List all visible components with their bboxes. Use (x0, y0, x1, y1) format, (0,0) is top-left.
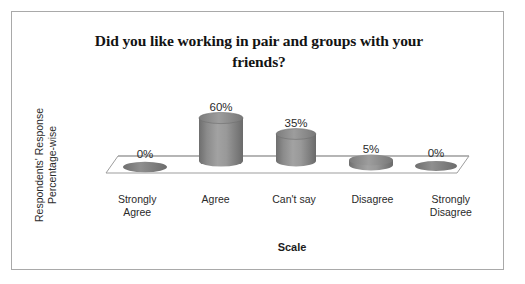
category-label-agree: Agree (176, 193, 254, 219)
bar-cant-say (276, 129, 316, 167)
category-label-line-1: Agree (202, 193, 230, 205)
data-label-strongly-disagree: 0% (428, 147, 445, 159)
data-label-cant-say: 35% (284, 117, 307, 129)
plot-area: 0% 60% 35% 5% 0% (12, 12, 505, 271)
category-label-line-1: Can't say (272, 193, 315, 205)
category-label-line-1: Strongly (118, 193, 157, 205)
bar-disagree (349, 155, 393, 171)
category-label-line-1: Strongly (432, 193, 471, 205)
data-label-agree: 60% (209, 101, 232, 113)
category-label-line-2: Disagree (412, 206, 490, 219)
x-axis-title: Scale (132, 241, 452, 253)
category-label-disagree: Disagree (333, 193, 411, 219)
chart-frame: Did you like working in pair and groups … (11, 11, 504, 270)
bar-strongly-disagree (415, 161, 457, 171)
data-label-disagree: 5% (363, 143, 380, 155)
category-label-cant-say: Can't say (255, 193, 333, 219)
category-label-line-2: Agree (98, 206, 176, 219)
bar-agree (199, 112, 243, 166)
chart-image: Did you like working in pair and groups … (0, 0, 525, 284)
x-axis-category-labels: Strongly Agree Agree Can't say Disagree … (98, 193, 490, 219)
bar-strongly-agree (123, 162, 167, 172)
data-label-strongly-agree: 0% (137, 148, 154, 160)
category-label-line-1: Disagree (351, 193, 393, 205)
category-label-strongly-agree: Strongly Agree (98, 193, 176, 219)
category-label-strongly-disagree: Strongly Disagree (412, 193, 490, 219)
